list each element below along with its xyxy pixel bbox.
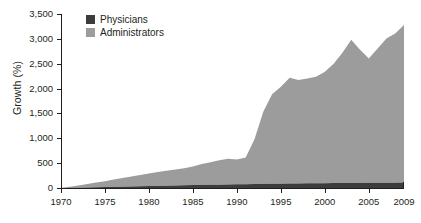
x-axis-tick-label: 2005 — [358, 197, 379, 207]
x-axis-tick-label: 1990 — [226, 197, 247, 207]
legend-item-physicians[interactable]: Physicians — [86, 14, 164, 25]
legend-swatch-physicians — [86, 15, 95, 24]
x-axis-tick-label: 1980 — [138, 197, 159, 207]
x-axis-tick-label: 1975 — [94, 197, 115, 207]
x-axis-tick-label: 1970 — [50, 197, 71, 207]
legend-label-administrators: Administrators — [100, 27, 164, 38]
area-series-administrators — [61, 25, 404, 188]
x-axis-tick-label: 2000 — [314, 197, 335, 207]
legend-swatch-administrators — [86, 28, 95, 37]
x-axis-tick-label: 1995 — [270, 197, 291, 207]
chart-legend: Physicians Administrators — [86, 14, 164, 38]
x-axis-tick-label: 2009 — [393, 197, 414, 207]
legend-item-administrators[interactable]: Administrators — [86, 27, 164, 38]
series-layer — [61, 25, 404, 188]
x-axis-tick-label: 1985 — [182, 197, 203, 207]
plot-area — [0, 0, 421, 223]
growth-area-chart: 05001,0001,5002,0002,5003,0003,500 Growt… — [0, 0, 421, 223]
legend-label-physicians: Physicians — [100, 14, 148, 25]
